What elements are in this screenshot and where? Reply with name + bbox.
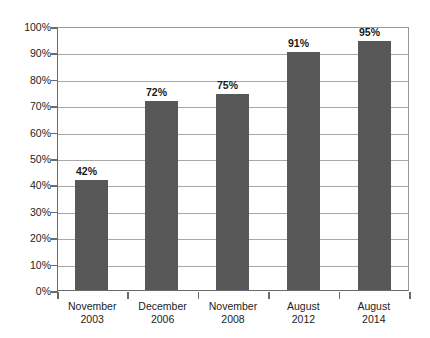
- x-axis-tick-mark: [57, 292, 59, 299]
- x-axis-tick-mark: [198, 292, 200, 299]
- x-axis-tick-mark: [268, 292, 270, 299]
- bar-august-2014: [358, 41, 391, 290]
- x-axis-category-line2: 2014: [339, 313, 409, 326]
- bar-value-label: 72%: [124, 87, 189, 98]
- bar-december-2006: [145, 101, 178, 290]
- x-axis-category-line1: November: [209, 300, 257, 312]
- bar-value-label: 75%: [195, 80, 260, 91]
- x-axis-category-line1: November: [68, 300, 116, 312]
- bar-august-2012: [287, 52, 320, 290]
- bar-november-2003: [75, 180, 108, 290]
- y-axis-tick-label: 20%: [0, 233, 51, 244]
- y-axis-tick-label: 30%: [0, 207, 51, 218]
- y-axis-tick-label: 60%: [0, 128, 51, 139]
- x-axis-category-line2: 2012: [268, 313, 338, 326]
- bar-value-label: 91%: [266, 38, 331, 49]
- x-axis-category-label-december-2006: December 2006: [127, 300, 197, 326]
- x-axis-category-line2: 2008: [198, 313, 268, 326]
- x-axis-tick-mark: [127, 292, 129, 299]
- x-axis-category-label-november-2003: November 2003: [57, 300, 127, 326]
- x-axis-tick-mark: [339, 292, 341, 299]
- x-axis-category-line2: 2006: [127, 313, 197, 326]
- y-axis-tick-label: 50%: [0, 154, 51, 165]
- y-axis-tick-label: 90%: [0, 48, 51, 59]
- x-axis-category-line2: 2003: [57, 313, 127, 326]
- bar-value-label: 42%: [54, 166, 119, 177]
- x-axis-category-line1: December: [138, 300, 186, 312]
- gridline: [58, 54, 408, 55]
- y-axis-tick-label: 70%: [0, 101, 51, 112]
- y-axis-tick-label: 40%: [0, 180, 51, 191]
- x-axis-tick-mark: [409, 292, 411, 299]
- x-axis-category-line1: August: [287, 300, 320, 312]
- x-axis-category-label-november-2008: November 2008: [198, 300, 268, 326]
- bar-november-2008: [216, 94, 249, 291]
- y-axis-tick-label: 80%: [0, 75, 51, 86]
- bar-chart: 100% 90% 80% 70% 60% 50% 40% 30% 20% 10%…: [0, 0, 430, 338]
- y-axis-tick-label: 0%: [0, 286, 51, 297]
- x-axis-category-line1: August: [357, 300, 390, 312]
- x-axis-category-label-august-2012: August 2012: [268, 300, 338, 326]
- plot-area: [57, 27, 409, 291]
- x-axis-category-label-august-2014: August 2014: [339, 300, 409, 326]
- bar-value-label: 95%: [337, 27, 402, 38]
- y-axis-tick-label: 10%: [0, 260, 51, 271]
- y-axis-tick-label: 100%: [0, 22, 51, 33]
